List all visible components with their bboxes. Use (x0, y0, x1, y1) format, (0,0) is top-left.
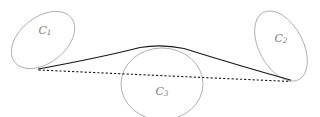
diagram-svg: C1 C2 C3 (0, 0, 320, 117)
region-label-c3: C3 (155, 85, 168, 98)
solid-arc-path (39, 46, 291, 80)
dashed-chord-path (39, 70, 291, 82)
region-label-c2: C2 (274, 32, 287, 45)
region-label-c1: C1 (38, 24, 51, 37)
region-ellipse-c3 (121, 48, 203, 117)
region-label-c3-subscript: 3 (164, 89, 169, 98)
region-label-c1-subscript: 1 (47, 28, 52, 37)
figure-canvas: C1 C2 C3 (0, 0, 320, 117)
region-label-c2-subscript: 2 (282, 36, 288, 45)
